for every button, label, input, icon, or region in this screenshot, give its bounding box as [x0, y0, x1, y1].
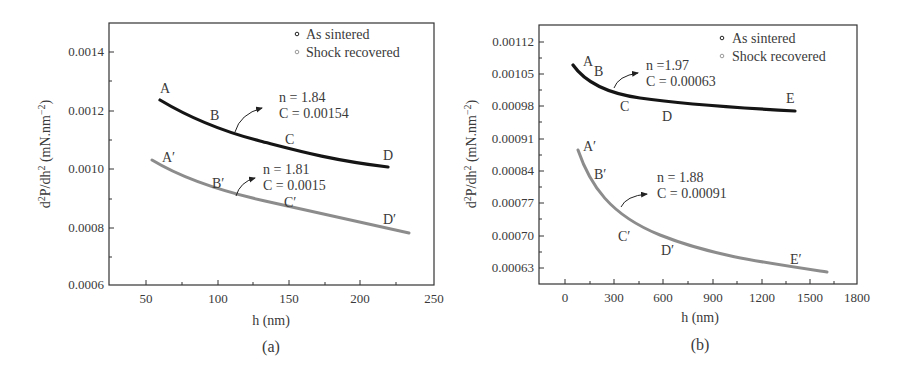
chart-a: 0.0014 0.0012 0.0010 0.0008 0.0006 50 10… — [36, 23, 444, 356]
x-axis-a — [146, 280, 396, 285]
y-tick-label: 0.00105 — [492, 66, 534, 81]
figure: 0.0014 0.0012 0.0010 0.0008 0.0006 50 10… — [0, 0, 906, 378]
legend-marker-as-sintered — [295, 32, 299, 36]
arrow-icon — [614, 73, 638, 88]
point-label: E′ — [790, 252, 802, 267]
x-tick-label: 600 — [653, 290, 673, 305]
point-label: D′ — [661, 243, 674, 258]
x-axis-title-a: h (nm) — [252, 313, 290, 329]
x-tick-label: 150 — [279, 291, 299, 306]
annotation-c: C = 0.00091 — [657, 186, 727, 201]
point-label: C′ — [618, 229, 630, 244]
point-label: D — [383, 148, 393, 163]
point-label: B — [210, 108, 219, 123]
y-tick-label: 0.0006 — [68, 277, 104, 292]
annotation-n: n = 1.81 — [263, 162, 309, 177]
x-tick-label: 900 — [703, 290, 723, 305]
legend-marker-as-sintered — [720, 36, 724, 40]
y-tick-label: 0.00063 — [492, 260, 534, 275]
legend-marker-shock-recovered — [295, 50, 299, 54]
y-axis-title-b: d2P/dh2 (mN.nm−2) — [462, 99, 481, 208]
x-tick-label: 1200 — [749, 290, 775, 305]
x-axis-b — [565, 279, 834, 284]
x-tick-label: 50 — [140, 291, 153, 306]
x-tick-label: 1800 — [844, 290, 870, 305]
y-axis-title-a: d2P/dh2 (mN.nm−2) — [36, 99, 55, 208]
y-axis-a — [109, 52, 114, 257]
panel-label-b: (b) — [691, 336, 710, 354]
x-tick-label: 0 — [562, 290, 569, 305]
y-tick-label: 0.00084 — [492, 163, 535, 178]
chart-b: 0.00112 0.00105 0.00098 0.00091 0.00084 … — [462, 25, 871, 354]
legend-marker-shock-recovered — [720, 54, 724, 58]
y-tick-label: 0.00098 — [492, 98, 534, 113]
annotation-n: n =1.97 — [646, 58, 689, 73]
x-tick-label: 200 — [350, 291, 370, 306]
point-label: A′ — [162, 150, 175, 165]
annotation-c: C = 0.00154 — [279, 106, 349, 121]
legend-label: Shock recovered — [732, 49, 826, 64]
legend-label: As sintered — [732, 31, 795, 46]
y-axis-b — [539, 42, 544, 268]
point-label: C — [285, 132, 294, 147]
legend-label: Shock recovered — [306, 45, 400, 60]
point-label: D — [662, 109, 672, 124]
legend-a: As sintered Shock recovered — [295, 27, 399, 60]
point-label: A′ — [583, 139, 596, 154]
point-label: D′ — [383, 212, 396, 227]
point-label: C — [620, 99, 629, 114]
y-tick-label: 0.0008 — [68, 220, 104, 235]
legend-label: As sintered — [306, 27, 369, 42]
x-tick-label: 100 — [208, 291, 228, 306]
x-tick-label: 1500 — [797, 290, 823, 305]
x-tick-label: 250 — [424, 291, 444, 306]
arrow-icon — [621, 194, 647, 207]
point-label: E — [786, 91, 795, 106]
annotation-n: n = 1.88 — [657, 170, 703, 185]
y-tick-label: 0.00112 — [492, 34, 534, 49]
legend-b: As sintered Shock recovered — [720, 31, 825, 64]
x-tick-label: 300 — [604, 290, 624, 305]
y-tick-label: 0.00077 — [492, 195, 535, 210]
point-label: B′ — [594, 167, 606, 182]
y-tick-label: 0.0014 — [68, 44, 104, 59]
annotation-c: C = 0.00063 — [646, 74, 716, 89]
arrow-icon — [235, 108, 262, 132]
y-tick-label: 0.0012 — [68, 103, 104, 118]
panel-label-a: (a) — [262, 338, 280, 356]
y-tick-label: 0.00070 — [492, 228, 534, 243]
point-label: B′ — [212, 176, 224, 191]
point-label: A — [160, 81, 171, 96]
annotation-c: C = 0.0015 — [263, 178, 326, 193]
annotation-n: n = 1.84 — [279, 90, 325, 105]
point-label: B — [594, 64, 603, 79]
y-tick-label: 0.00091 — [492, 131, 534, 146]
point-label: C′ — [284, 195, 296, 210]
curve-as-sintered-a — [160, 100, 388, 167]
y-tick-label: 0.0010 — [68, 161, 104, 176]
point-label: A — [583, 54, 594, 69]
x-axis-title-b: h (nm) — [681, 310, 719, 326]
